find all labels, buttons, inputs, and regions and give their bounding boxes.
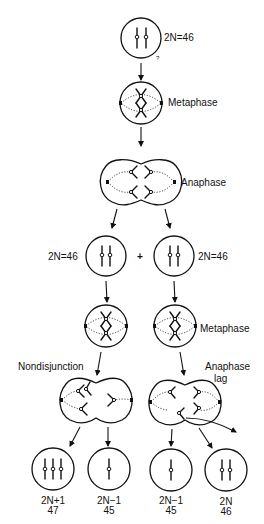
metaphase-cell-left bbox=[84, 305, 128, 347]
arrow bbox=[106, 281, 107, 302]
plus-sign: + bbox=[137, 251, 143, 262]
chromosome bbox=[51, 459, 55, 479]
arrow bbox=[165, 209, 170, 228]
anaphase-label: Anaphase bbox=[181, 177, 226, 188]
cell-membrane bbox=[154, 305, 196, 347]
chromatid bbox=[129, 166, 137, 178]
chromatid bbox=[145, 186, 153, 198]
chromosome bbox=[135, 28, 139, 48]
chromosome bbox=[170, 326, 180, 340]
anaphase-lag-label-2: lag bbox=[214, 373, 227, 384]
chromatid bbox=[194, 387, 201, 398]
cell-membrane bbox=[205, 449, 247, 491]
chromosome bbox=[43, 459, 47, 479]
chromatid bbox=[79, 403, 87, 415]
outcome-cell-monosomy-1: 2N−1 45 bbox=[88, 448, 130, 516]
anaphase-lag-cell: Anaphase lag bbox=[149, 361, 251, 432]
arrow bbox=[97, 352, 101, 375]
daughter-left-label: 2N=46 bbox=[48, 251, 78, 262]
chromosome bbox=[100, 246, 104, 266]
chromosome bbox=[169, 460, 173, 480]
spindle bbox=[151, 392, 219, 411]
chromosome bbox=[176, 246, 180, 266]
chromosome bbox=[144, 28, 148, 48]
arrow bbox=[174, 281, 175, 302]
nondisjunction-label: Nondisjunction bbox=[18, 361, 84, 372]
lost-chromatid-arrow bbox=[186, 418, 236, 432]
outcome-count: 45 bbox=[103, 505, 115, 516]
outcome-count: 45 bbox=[165, 505, 177, 516]
cell-membrane bbox=[120, 82, 162, 124]
spindle-pole bbox=[149, 400, 152, 404]
chromosome bbox=[136, 103, 146, 117]
spindle-pole bbox=[173, 180, 176, 184]
chromosome bbox=[108, 246, 112, 266]
outcome-cell-trisomy: 2N+1 47 bbox=[32, 448, 74, 516]
arrow bbox=[171, 429, 172, 446]
spindle-pole bbox=[160, 101, 163, 105]
cell-membrane bbox=[85, 305, 127, 347]
chromosome bbox=[59, 459, 63, 479]
diagram-canvas: 2N=46 ? Metaphase Anaphase bbox=[0, 0, 264, 524]
metaphase-cell-right: Metaphase bbox=[153, 305, 250, 347]
chromosome bbox=[168, 246, 172, 266]
chromatid bbox=[194, 403, 201, 414]
chromosome bbox=[220, 460, 224, 480]
spindle bbox=[62, 391, 131, 409]
chromosome bbox=[136, 89, 146, 103]
nondisjunction-cell: Nondisjunction bbox=[18, 361, 133, 423]
stray-mark: ? bbox=[156, 55, 160, 61]
spindle bbox=[108, 172, 174, 193]
outcome-cell-normal: 2N 46 bbox=[205, 449, 247, 517]
spindle-pole bbox=[119, 101, 122, 105]
chromosome bbox=[228, 460, 232, 480]
spindle-pole bbox=[125, 324, 128, 328]
anaphase-cell-1: Anaphase bbox=[100, 160, 226, 205]
spindle-pole bbox=[153, 324, 156, 328]
daughter-right-label: 2N=46 bbox=[198, 251, 228, 262]
outcome-cell-monosomy-2: 2N−1 45 bbox=[150, 449, 192, 516]
chromosome bbox=[107, 459, 111, 479]
cell-membrane bbox=[149, 380, 221, 425]
daughter-cell-left: 2N=46 bbox=[48, 236, 126, 276]
metaphase-label-2: Metaphase bbox=[200, 323, 250, 334]
outcome-count: 47 bbox=[47, 505, 59, 516]
mitosis-error-diagram: 2N=46 ? Metaphase Anaphase bbox=[0, 0, 264, 524]
daughter-cell-right: 2N=46 bbox=[154, 236, 228, 276]
cell-membrane bbox=[121, 18, 161, 58]
chromosome bbox=[101, 312, 111, 326]
cell-membrane bbox=[100, 160, 181, 205]
arrow bbox=[70, 427, 80, 446]
parent-cell: 2N=46 ? bbox=[121, 18, 194, 61]
anaphase-lag-label-1: Anaphase bbox=[205, 361, 250, 372]
spindle-pole bbox=[84, 324, 87, 328]
metaphase-cell-1: Metaphase bbox=[119, 82, 218, 124]
spindle-pole bbox=[106, 180, 109, 184]
arrow bbox=[180, 352, 184, 375]
lagging-chromatid bbox=[177, 408, 184, 419]
spindle-pole bbox=[218, 400, 221, 404]
chromatid bbox=[76, 385, 84, 397]
chromatid bbox=[168, 387, 175, 398]
chromosome bbox=[101, 326, 111, 340]
cell-membrane bbox=[154, 236, 194, 276]
arrow bbox=[112, 209, 117, 228]
spindle-pole bbox=[60, 398, 63, 402]
cell-membrane bbox=[86, 236, 126, 276]
spindle-pole bbox=[130, 398, 133, 402]
chromatid bbox=[108, 394, 116, 406]
chromosome bbox=[170, 312, 180, 326]
spindle-pole bbox=[194, 324, 197, 328]
chromatid bbox=[84, 382, 91, 395]
metaphase-label: Metaphase bbox=[168, 97, 218, 108]
arrow bbox=[199, 428, 212, 448]
chromatid bbox=[145, 166, 153, 178]
parent-label: 2N=46 bbox=[164, 32, 194, 43]
chromatid bbox=[129, 186, 137, 198]
cell-membrane bbox=[60, 378, 132, 423]
outcome-count: 46 bbox=[220, 506, 232, 517]
